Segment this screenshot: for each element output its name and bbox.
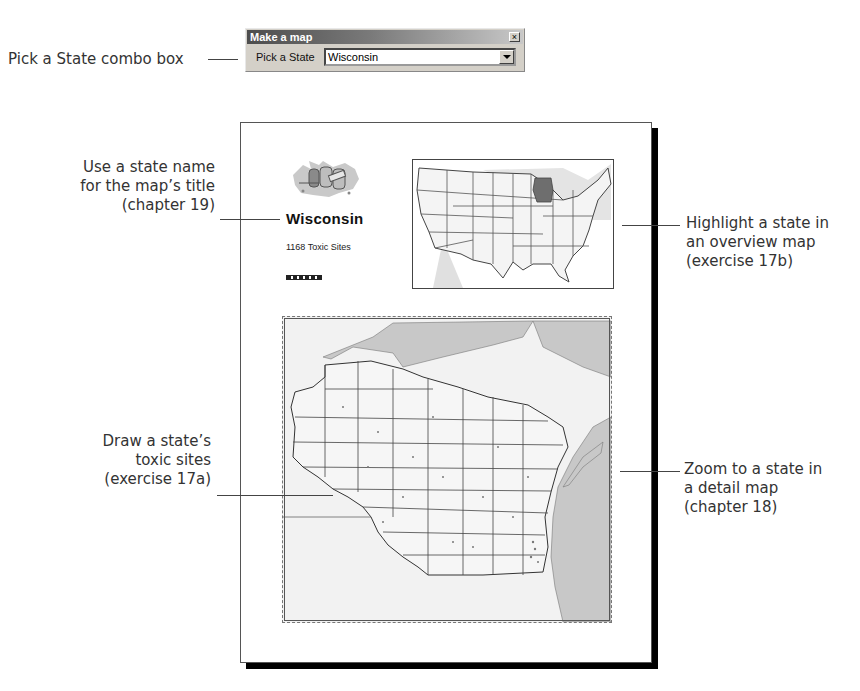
callout-overview-map: Highlight a state in an overview map (ex… <box>686 214 829 271</box>
dropdown-arrow-icon[interactable] <box>499 50 514 64</box>
dialog-titlebar[interactable]: Make a map × <box>247 30 523 44</box>
callout-combo-text: Pick a State combo box <box>8 50 184 68</box>
callout-text: an overview map <box>686 233 829 252</box>
close-button[interactable]: × <box>509 32 520 42</box>
detail-map <box>282 316 612 623</box>
callout-text: (chapter 19) <box>20 196 215 215</box>
dialog-title: Make a map <box>250 30 312 44</box>
callout-text: toxic sites <box>20 451 211 470</box>
callout-text: (exercise 17a) <box>20 470 211 489</box>
callout-text: for the map’s title <box>20 177 215 196</box>
overview-map <box>412 159 614 289</box>
callout-text: (exercise 17b) <box>686 252 829 271</box>
combo-value: Wisconsin <box>328 50 378 64</box>
callout-text: a detail map <box>684 479 822 498</box>
callout-text: Zoom to a state in <box>684 460 822 479</box>
callout-line <box>220 219 280 220</box>
make-a-map-dialog: Make a map × Pick a State Wisconsin <box>245 28 525 72</box>
pick-state-label: Pick a State <box>256 49 315 65</box>
map-title: Wisconsin <box>286 210 364 227</box>
callout-text: Highlight a state in <box>686 214 829 233</box>
scale-bar <box>286 275 322 280</box>
callout-text: Use a state name <box>20 158 215 177</box>
callout-toxic-sites: Draw a state’s toxic sites (exercise 17a… <box>20 432 211 489</box>
callout-line <box>208 59 238 60</box>
toxic-barrels-logo-icon <box>289 157 361 199</box>
state-combo-box[interactable]: Wisconsin <box>324 48 516 66</box>
callout-combo-box: Pick a State combo box <box>8 50 184 69</box>
callout-detail-map: Zoom to a state in a detail map (chapter… <box>684 460 822 517</box>
callout-map-title: Use a state name for the map’s title (ch… <box>20 158 215 215</box>
callout-text: (chapter 18) <box>684 498 822 517</box>
callout-line <box>217 495 333 496</box>
toxic-sites-count: 1168 Toxic Sites <box>286 242 351 252</box>
callout-line <box>622 225 680 226</box>
close-icon: × <box>512 32 517 42</box>
callout-text: Draw a state’s <box>20 432 211 451</box>
callout-line <box>620 471 680 472</box>
